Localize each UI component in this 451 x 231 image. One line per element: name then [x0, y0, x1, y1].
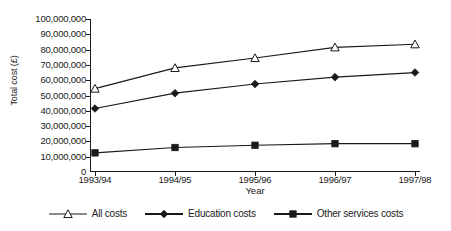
series-line	[95, 73, 415, 109]
series-3	[92, 140, 418, 156]
y-tick-label: 60,000,000	[16, 75, 86, 85]
data-point-marker	[412, 140, 418, 146]
data-point-marker	[91, 105, 99, 113]
y-tick-label: 100,000,000	[16, 14, 86, 24]
legend-item-3[interactable]: Other services costs	[273, 208, 404, 220]
legend-label: All costs	[92, 208, 127, 220]
y-tick-label: 90,000,000	[16, 29, 86, 39]
y-tick-label: 30,000,000	[16, 121, 86, 131]
legend-label: Other services costs	[317, 208, 404, 220]
y-tick-label: 80,000,000	[16, 45, 86, 55]
data-point-marker	[251, 80, 259, 88]
y-tick-label: 10,000,000	[16, 152, 86, 162]
y-tick-label: 50,000,000	[16, 91, 86, 101]
data-point-marker	[92, 150, 98, 156]
data-point-marker	[252, 142, 258, 148]
y-tick-label: 40,000,000	[16, 106, 86, 116]
data-point-marker	[331, 73, 339, 81]
legend-item-1[interactable]: All costs	[48, 208, 127, 220]
legend-label: Education costs	[188, 208, 256, 220]
legend-item-2[interactable]: Education costs	[144, 208, 256, 220]
legend-marker-filled-diamond-icon	[144, 208, 184, 220]
x-axis-title: Year	[90, 185, 420, 197]
data-series-layer	[90, 19, 420, 172]
y-axis-tick-labels: 100,000,00090,000,00080,000,00070,000,00…	[16, 0, 86, 231]
series-2	[91, 69, 419, 113]
data-point-marker	[172, 144, 178, 150]
legend-marker-open-triangle-icon	[48, 208, 88, 220]
legend-marker-filled-square-icon	[273, 208, 313, 220]
data-point-marker	[171, 89, 179, 97]
y-tick-label: 70,000,000	[16, 60, 86, 70]
y-tick-label: 20,000,000	[16, 136, 86, 146]
chart-legend: All costsEducation costsOther services c…	[0, 204, 451, 224]
data-point-marker	[411, 69, 419, 77]
data-point-marker	[332, 140, 338, 146]
line-chart-figure: Total cost (£) 100,000,00090,000,00080,0…	[0, 0, 451, 231]
